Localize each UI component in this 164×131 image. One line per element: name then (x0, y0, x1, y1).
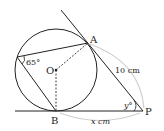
center-point-O (55, 69, 58, 72)
geometry-diagram: A B O P 65° y° 10 cm x cm (0, 0, 164, 131)
chord-CA (17, 43, 88, 57)
radius-OA (56, 43, 88, 70)
tangent-line-AP (61, 10, 143, 111)
label-A: A (89, 34, 98, 45)
label-O: O (46, 65, 54, 76)
label-B: B (51, 115, 58, 126)
label-length-BP-text: x cm (91, 117, 111, 126)
angle-mark-65 (22, 56, 25, 64)
label-angle-65: 65° (26, 58, 40, 67)
label-angle-y: y° (123, 101, 133, 110)
label-P: P (145, 106, 152, 117)
label-length-BP: x cm (91, 117, 111, 126)
label-length-AP: 10 cm (115, 66, 140, 75)
arc-AP (90, 44, 144, 108)
